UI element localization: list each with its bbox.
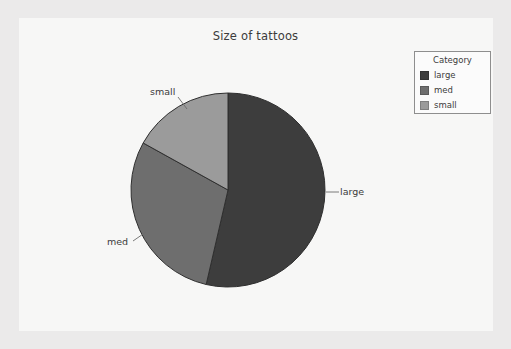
legend-box: Category largemedsmall bbox=[414, 51, 491, 114]
legend-label-small: small bbox=[434, 101, 457, 110]
legend-swatch-large bbox=[420, 71, 429, 80]
legend-item-med[interactable]: med bbox=[420, 83, 457, 97]
legend-item-small[interactable]: small bbox=[420, 98, 457, 112]
chart-root: Size of tattoos small med large Category… bbox=[0, 0, 511, 349]
pie-slices bbox=[131, 93, 325, 287]
legend-title: Category bbox=[415, 55, 490, 65]
chart-title: Size of tattoos bbox=[0, 29, 511, 43]
pie-label-large: large bbox=[340, 186, 364, 197]
legend-swatch-small bbox=[420, 101, 429, 110]
pie-label-small: small bbox=[150, 86, 175, 97]
legend-label-med: med bbox=[434, 86, 453, 95]
legend-items: largemedsmall bbox=[420, 68, 457, 113]
legend-swatch-med bbox=[420, 86, 429, 95]
pie-label-med: med bbox=[107, 236, 128, 247]
legend-item-large[interactable]: large bbox=[420, 68, 457, 82]
legend-label-large: large bbox=[434, 71, 456, 80]
